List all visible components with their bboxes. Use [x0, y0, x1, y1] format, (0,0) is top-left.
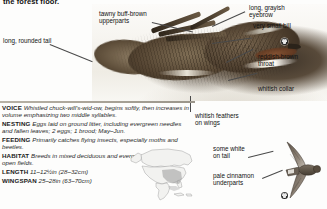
intro-text: the forest floor.	[3, 0, 59, 6]
leader-line-tail	[50, 44, 93, 62]
callout-upperparts: tawny buff-brown upperparts	[99, 10, 147, 25]
fact-key-voice: VOICE	[2, 104, 22, 111]
fact-row-nesting: NESTING Eggs laid on ground litter, incl…	[2, 120, 192, 135]
callout-long-rounded-tail: long, rounded tail	[3, 37, 51, 44]
callout-eyebrow: long, grayish eyebrow	[249, 4, 285, 19]
callout-whitish-collar: whitish collar	[258, 85, 294, 92]
callout-reddish-brown-throat: reddish-brown throat	[258, 53, 298, 68]
callout-some-white-on-tail: some white on tail	[213, 145, 245, 160]
fact-value-wingspan: 25–28in (63–70cm)	[39, 177, 92, 184]
flying-nightjar-illustration	[268, 140, 326, 202]
fact-value-length: 11–12½in (28–32cm)	[30, 168, 88, 175]
callout-very-small-bill: very small bill	[253, 22, 291, 29]
fact-key-feeding: FEEDING	[2, 136, 31, 143]
field-guide-page: the forest floor. long, rounded tail taw…	[0, 0, 327, 209]
callout-pale-cinnamon-underparts: pale cinnamon underparts	[213, 172, 254, 187]
fact-key-length: LENGTH	[2, 168, 28, 175]
photo-bill	[288, 44, 301, 50]
fact-row-voice: VOICE Whistled chuck-will's-wid-ow, begi…	[2, 104, 192, 119]
section-divider	[0, 101, 195, 103]
fact-key-wingspan: WINGSPAN	[2, 177, 37, 184]
badge-icon-head	[281, 38, 288, 45]
fact-key-nesting: NESTING	[2, 120, 31, 127]
callout-whitish-wing-feathers: whitish feathers on wings	[195, 112, 239, 127]
north-america-range-map	[128, 142, 200, 206]
photo-white-wing-patch	[158, 70, 216, 76]
fact-value-voice: Whistled chuck-will's-wid-ow, begins sof…	[2, 104, 189, 118]
fact-key-habitat: HABITAT	[2, 152, 29, 159]
